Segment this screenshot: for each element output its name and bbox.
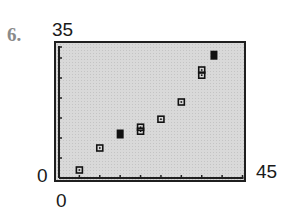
data-point [210,51,217,60]
scatter-plot [0,0,287,215]
data-point-center [201,69,203,71]
data-point-center [99,147,101,149]
data-point-center [79,169,81,171]
data-point-center [181,101,183,103]
data-point-center [201,74,203,76]
data-point-center [160,118,162,120]
data-point-center [140,126,142,128]
data-point [117,130,124,139]
